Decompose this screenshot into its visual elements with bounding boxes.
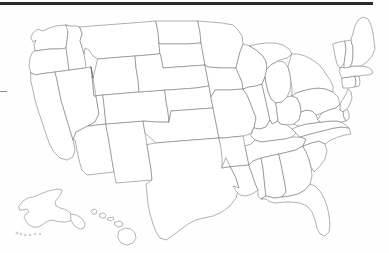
- aleutian-island-5: [34, 233, 36, 235]
- hawaii-island-4: [115, 221, 123, 227]
- state-ak-panhandle: [71, 214, 85, 229]
- hawaii-island-2: [100, 213, 106, 218]
- aleutian-island-2: [20, 233, 22, 235]
- alaska-inset-layer: [16, 189, 85, 236]
- hawaii-island-5: [118, 228, 136, 245]
- map-page: [0, 0, 389, 253]
- state-ar: [219, 136, 249, 168]
- aleutian-island-6: [39, 233, 41, 235]
- state-mt: [80, 21, 160, 59]
- state-sd: [159, 43, 205, 68]
- state-nd: [156, 21, 201, 44]
- hawaii-island-3: [108, 217, 114, 221]
- aleutian-island-1: [16, 232, 18, 234]
- state-ri: [355, 76, 360, 87]
- aleutian-island-4: [29, 234, 31, 236]
- contiguous-states-layer: [29, 17, 375, 240]
- state-wy: [91, 56, 139, 96]
- hawaii-inset-layer: [91, 209, 136, 245]
- aleutian-island-3: [24, 234, 26, 236]
- state-wa: [31, 25, 70, 51]
- state-mn: [198, 21, 243, 68]
- state-ak: [19, 189, 73, 227]
- state-me: [350, 17, 375, 67]
- us-states-outline-map: [0, 0, 389, 253]
- map-svg: [0, 0, 389, 253]
- state-nj: [340, 89, 352, 112]
- state-co: [103, 90, 169, 124]
- hawaii-island-1: [91, 209, 97, 214]
